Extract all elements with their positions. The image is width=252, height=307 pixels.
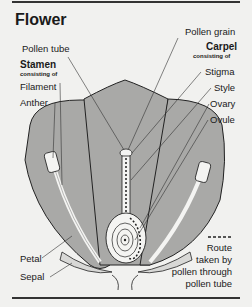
label-anther: Anther — [20, 98, 48, 108]
legend-line-4: pollen tube — [186, 279, 232, 289]
label-pollen-grain: Pollen grain — [185, 27, 235, 37]
label-pollen-tube: Pollen tube — [22, 44, 70, 54]
label-ovule: Ovule — [210, 115, 235, 125]
legend-line-2: taken by — [196, 255, 232, 265]
label-ovary: Ovary — [210, 99, 235, 109]
label-stigma: Stigma — [205, 67, 235, 77]
label-carpel-sub: consisting of — [193, 53, 230, 59]
stem-left — [112, 275, 118, 290]
legend-line-3: pollen through — [172, 267, 232, 277]
stem-right — [132, 275, 138, 290]
label-petal: Petal — [20, 254, 42, 264]
label-sepal: Sepal — [20, 272, 44, 282]
label-carpel: Carpel — [206, 42, 237, 52]
label-style: Style — [214, 83, 235, 93]
label-stamen: Stamen — [20, 60, 56, 70]
legend-line-1: Route — [207, 243, 232, 253]
label-filament: Filament — [20, 82, 56, 92]
label-stamen-sub: consisting of — [20, 71, 57, 77]
